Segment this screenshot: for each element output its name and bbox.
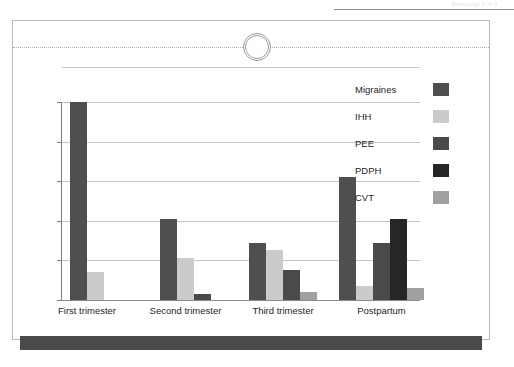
bar xyxy=(390,219,407,300)
legend-item-label: IHH xyxy=(355,110,371,123)
bar xyxy=(160,219,177,300)
legend-item-label: PDPH xyxy=(355,164,381,177)
legend-item-label: Migraines xyxy=(355,83,396,96)
bar-group xyxy=(70,102,104,300)
x-axis-baseline xyxy=(61,300,420,301)
bar xyxy=(373,243,390,300)
bar xyxy=(249,243,266,300)
footer-bar xyxy=(20,336,482,350)
legend-color-swatch xyxy=(433,83,449,96)
x-axis-category-label: First trimester xyxy=(40,304,134,317)
bar xyxy=(339,177,356,300)
bar xyxy=(283,270,300,300)
legend-item[interactable]: IHH xyxy=(355,110,465,123)
x-axis-category-labels: First trimesterSecond trimesterThird tri… xyxy=(62,304,420,320)
x-axis-category-label: Postpartum xyxy=(309,304,454,317)
legend-item[interactable]: Migraines xyxy=(355,83,465,96)
bar-group xyxy=(160,102,211,300)
bar xyxy=(266,250,283,300)
legend-item[interactable]: PDPH xyxy=(355,164,465,177)
page-header-strip: Neurology 2 of 2 xyxy=(0,0,514,12)
bar xyxy=(407,288,424,300)
perforation-circle-inner-icon xyxy=(245,35,269,59)
chart-legend: MigrainesIHHPEEPDPHCVT xyxy=(355,83,465,199)
bar xyxy=(87,272,104,300)
legend-color-swatch xyxy=(433,191,449,204)
legend-item-label: PEE xyxy=(355,137,374,150)
bar xyxy=(300,292,317,300)
header-underline xyxy=(62,67,420,68)
legend-color-swatch xyxy=(433,110,449,123)
bar xyxy=(356,286,373,300)
legend-color-swatch xyxy=(433,164,449,177)
legend-item[interactable]: CVT xyxy=(355,191,465,204)
header-divider xyxy=(334,9,514,10)
legend-item[interactable]: PEE xyxy=(355,137,465,150)
legend-item-label: CVT xyxy=(355,191,374,204)
screenshot-root: Neurology 2 of 2 First trimesterSecond t… xyxy=(0,0,514,367)
bar-group xyxy=(249,102,317,300)
header-note: Neurology 2 of 2 xyxy=(452,0,498,8)
bar xyxy=(70,102,87,300)
legend-color-swatch xyxy=(433,137,449,150)
bar xyxy=(177,258,194,300)
